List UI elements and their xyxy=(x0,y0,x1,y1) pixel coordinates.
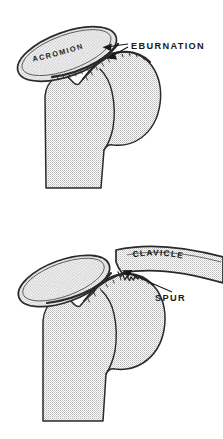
anatomical-figure-root: ACROMION EBURNATION CLAVIC xyxy=(0,0,223,439)
label-spur: SPUR xyxy=(155,293,186,303)
shoulder-illustration-svg: ACROMION EBURNATION CLAVIC xyxy=(0,0,223,439)
label-eburnation: EBURNATION xyxy=(131,41,205,51)
